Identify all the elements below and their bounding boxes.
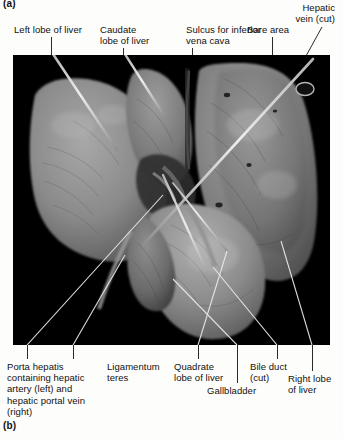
label-bile-duct-cut: Bile duct (cut) xyxy=(250,361,287,383)
leader-bile-duct-cut xyxy=(277,345,278,359)
anatomy-figure: (a) (b) Left lobe of liver Caudate lobe … xyxy=(0,0,343,439)
specimen-rendering xyxy=(13,55,330,345)
leader-quadrate-lobe-of-liver xyxy=(198,345,199,359)
label-gallbladder: Gallbladder xyxy=(207,385,256,396)
label-ligamentum-teres: Ligamentum teres xyxy=(107,361,160,383)
label-quadrate-lobe-of-liver: Quadrate lobe of liver xyxy=(174,361,223,383)
leader-gallbladder xyxy=(237,345,238,383)
leader-right-lobe-of-liver xyxy=(312,345,313,371)
leader-ligamentum-teres xyxy=(73,345,74,359)
leader-porta-hepatis xyxy=(27,345,28,359)
liver-specimen-photo xyxy=(13,55,330,345)
panel-letter-b: (b) xyxy=(3,421,16,431)
leader-hepatic-vein-cut xyxy=(0,0,343,60)
hepatic-vein-cut-opening xyxy=(296,83,314,96)
label-porta-hepatis: Porta hepatis containing hepatic artery … xyxy=(7,361,107,417)
label-right-lobe-of-liver: Right lobe of liver xyxy=(288,373,331,395)
